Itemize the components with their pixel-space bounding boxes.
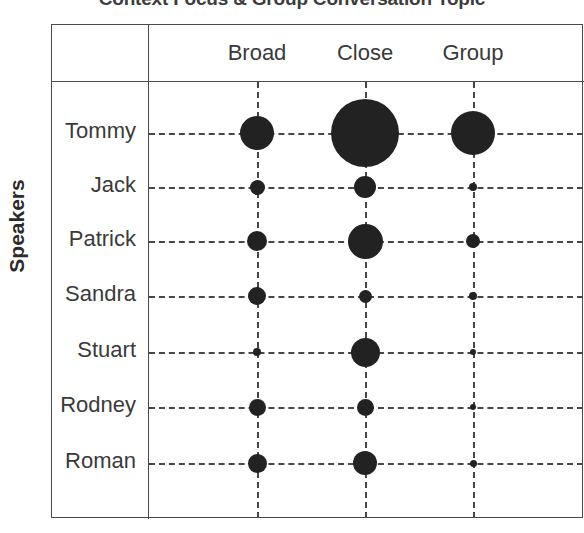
row-label-jack: Jack (48, 172, 144, 198)
row-label-roman: Roman (48, 448, 144, 474)
bubble-stuart-close (351, 338, 380, 367)
bubble-jack-broad (250, 180, 265, 195)
bubble-sandra-close (359, 290, 372, 303)
chart-title: Context Focus & Group Conversation Topic (0, 0, 584, 10)
row-label-tommy: Tommy (48, 118, 144, 144)
bubble-roman-close (353, 451, 377, 475)
bubble-rodney-group (470, 404, 476, 410)
row-label-stuart: Stuart (48, 337, 144, 363)
column-header-close: Close (305, 40, 425, 66)
bubble-sandra-group (469, 292, 477, 300)
bubble-rodney-close (357, 399, 374, 416)
column-header-broad: Broad (197, 40, 317, 66)
column-header-group: Group (413, 40, 533, 66)
bubble-roman-group (470, 460, 477, 467)
bubble-rodney-broad (249, 399, 266, 416)
bubble-tommy-close (331, 99, 399, 167)
header-separator-line (52, 81, 584, 82)
y-axis-label: Speakers (5, 171, 45, 281)
bubble-tommy-broad (240, 116, 274, 150)
bubble-stuart-group (470, 349, 476, 355)
row-label-patrick: Patrick (48, 226, 144, 252)
bubble-patrick-group (466, 234, 480, 248)
row-label-sandra: Sandra (48, 281, 144, 307)
row-label-rodney: Rodney (48, 392, 144, 418)
bubble-roman-broad (248, 454, 267, 473)
bubble-jack-close (354, 176, 376, 198)
bubble-jack-group (469, 183, 477, 191)
bubble-tommy-group (451, 111, 495, 155)
bubble-sandra-broad (248, 287, 266, 305)
bubble-patrick-broad (247, 231, 267, 251)
bubble-stuart-broad (253, 348, 261, 356)
row-label-divider-line (148, 25, 149, 519)
bubble-patrick-close (348, 224, 383, 259)
plot-frame: BroadCloseGroup TommyJackPatrickSandraSt… (51, 24, 583, 518)
